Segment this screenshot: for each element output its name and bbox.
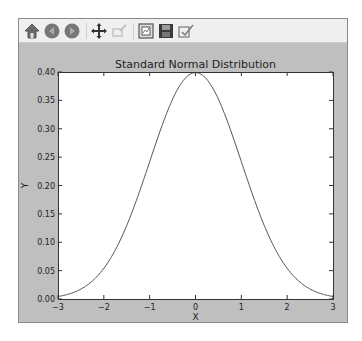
- zoom-button[interactable]: [110, 22, 128, 40]
- figure-window: Standard Normal Distribution −3−2−101230…: [18, 18, 348, 323]
- axes-background: [58, 72, 333, 299]
- chart-title: Standard Normal Distribution: [115, 58, 276, 71]
- x-tick-label: 0: [193, 303, 198, 312]
- toolbar-separator: [133, 23, 134, 39]
- figure-canvas: Standard Normal Distribution −3−2−101230…: [19, 43, 347, 322]
- configure-subplots-button[interactable]: [137, 22, 155, 40]
- chart: Standard Normal Distribution −3−2−101230…: [19, 43, 347, 322]
- y-axis-label: Y: [20, 182, 30, 189]
- toolbar-separator: [86, 23, 87, 39]
- navigation-toolbar: [19, 19, 347, 43]
- back-arrow-icon: [43, 22, 61, 40]
- pan-button[interactable]: [90, 22, 108, 40]
- y-tick-label: 0.25: [37, 153, 55, 162]
- configure-subplots-icon: [137, 22, 155, 40]
- y-tick-label: 0.05: [37, 267, 55, 276]
- y-tick-label: 0.00: [37, 295, 55, 304]
- home-icon: [23, 22, 41, 40]
- y-tick-label: 0.10: [37, 238, 55, 247]
- x-tick-label: 2: [285, 303, 290, 312]
- x-tick-label: −1: [144, 303, 156, 312]
- customize-button[interactable]: [177, 22, 195, 40]
- home-button[interactable]: [23, 22, 41, 40]
- zoom-rect-icon: [110, 22, 128, 40]
- y-tick-label: 0.20: [37, 182, 55, 191]
- save-button[interactable]: [157, 22, 175, 40]
- x-axis-label: X: [192, 312, 198, 322]
- forward-button[interactable]: [63, 22, 81, 40]
- x-tick-label: −2: [98, 303, 110, 312]
- save-icon: [157, 22, 175, 40]
- y-tick-label: 0.35: [37, 96, 55, 105]
- edit-axes-icon: [177, 22, 195, 40]
- y-tick-label: 0.15: [37, 210, 55, 219]
- y-tick-label: 0.30: [37, 125, 55, 134]
- y-tick-label: 0.40: [37, 68, 55, 77]
- x-tick-label: 3: [330, 303, 335, 312]
- move-icon: [90, 22, 108, 40]
- back-button[interactable]: [43, 22, 61, 40]
- x-tick-label: −3: [52, 303, 64, 312]
- x-tick-label: 1: [239, 303, 244, 312]
- forward-arrow-icon: [63, 22, 81, 40]
